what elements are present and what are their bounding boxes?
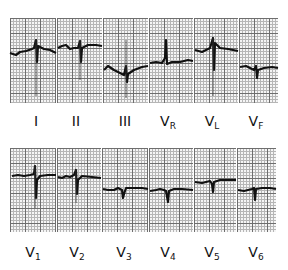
lead-label-VL: VL: [197, 113, 227, 131]
ecg-trace-limb: [10, 18, 278, 103]
lead-label-III: III: [110, 113, 140, 131]
lead-label-V5: V5: [197, 244, 227, 262]
lead-label-VR: VR: [153, 113, 183, 131]
lead-label-V1: V1: [18, 244, 48, 262]
precordial-leads-strip: [10, 148, 276, 232]
lead-label-II: II: [61, 113, 91, 131]
lead-label-V6: V6: [241, 244, 271, 262]
limb-leads-strip: [10, 18, 278, 103]
ecg-trace-precordial: [10, 148, 276, 232]
lead-label-V2: V2: [62, 244, 92, 262]
lead-label-VF: VF: [241, 113, 271, 131]
lead-label-V3: V3: [109, 244, 139, 262]
lead-label-V4: V4: [153, 244, 183, 262]
lead-label-I: I: [21, 113, 51, 131]
